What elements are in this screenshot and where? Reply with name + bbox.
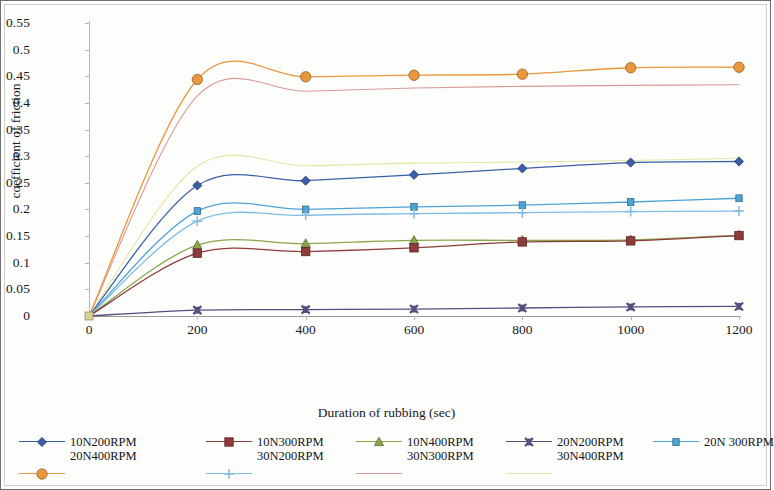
x-tick-mark bbox=[414, 316, 415, 320]
data-point-marker bbox=[518, 238, 526, 246]
data-point-marker bbox=[37, 437, 46, 446]
data-point-marker bbox=[517, 69, 527, 79]
chart-area: coefficient of friction Duration of rubb… bbox=[1, 1, 772, 401]
data-point-marker bbox=[409, 70, 419, 80]
data-point-marker bbox=[225, 438, 233, 446]
legend-item[interactable]: 30N400RPM bbox=[506, 456, 624, 478]
data-point-marker bbox=[517, 208, 527, 218]
data-point-marker bbox=[518, 164, 527, 173]
data-point-marker bbox=[519, 202, 525, 209]
x-tick-mark bbox=[306, 316, 307, 320]
data-point-marker bbox=[300, 72, 310, 82]
data-point-marker bbox=[192, 216, 202, 226]
data-point-marker bbox=[627, 199, 633, 206]
x-tick-label: 400 bbox=[296, 323, 316, 337]
y-tick-label: 0.2 bbox=[0, 202, 30, 215]
y-tick-label: 0.45 bbox=[0, 69, 30, 82]
data-point-marker bbox=[192, 74, 202, 84]
data-point-marker bbox=[410, 244, 418, 252]
legend-key bbox=[206, 436, 252, 448]
y-tick-label: 0.35 bbox=[0, 123, 30, 136]
legend-key bbox=[506, 436, 552, 448]
data-point-marker bbox=[736, 195, 742, 202]
data-point-marker bbox=[301, 247, 309, 255]
legend-key bbox=[506, 468, 552, 480]
y-tick-label: 0.3 bbox=[0, 149, 30, 162]
chart-legend: 10N200RPM10N300RPM10N400RPM20N200RPM20N … bbox=[1, 429, 772, 487]
legend-label: 10N400RPM bbox=[407, 436, 474, 449]
y-tick-label: 0.05 bbox=[0, 282, 30, 295]
y-tick-label: 0.25 bbox=[0, 176, 30, 189]
legend-label: 20N200RPM bbox=[557, 436, 624, 449]
series-line bbox=[89, 78, 739, 316]
legend-key bbox=[19, 468, 65, 480]
legend-item[interactable]: 30N300RPM bbox=[356, 456, 474, 478]
x-tick-label: 200 bbox=[187, 323, 207, 337]
y-tick-label: 0.4 bbox=[0, 96, 30, 109]
legend-label: 20N 300RPM bbox=[704, 436, 774, 449]
data-point-marker bbox=[374, 437, 383, 445]
data-point-marker bbox=[734, 206, 744, 216]
legend-marker bbox=[373, 436, 385, 448]
origin-marker bbox=[85, 312, 93, 320]
legend-label: 30N200RPM bbox=[257, 450, 324, 463]
legend-marker bbox=[223, 468, 235, 480]
legend-key bbox=[356, 468, 402, 480]
legend-marker bbox=[36, 468, 48, 480]
y-tick-label: 0.55 bbox=[0, 16, 30, 29]
legend-line-swatch bbox=[356, 473, 402, 474]
legend-key bbox=[206, 468, 252, 480]
x-axis-title: Duration of rubbing (sec) bbox=[1, 405, 772, 421]
data-point-marker bbox=[626, 237, 634, 245]
x-tick-mark bbox=[197, 316, 198, 320]
legend-label: 20N400RPM bbox=[70, 450, 137, 463]
x-tick-mark bbox=[739, 316, 740, 320]
legend-key bbox=[19, 436, 65, 448]
legend-label: 30N300RPM bbox=[407, 450, 474, 463]
y-tick-label: 0.1 bbox=[0, 256, 30, 269]
x-tick-label: 600 bbox=[404, 323, 424, 337]
legend-line-swatch bbox=[506, 473, 552, 474]
data-point-marker bbox=[409, 170, 418, 179]
series-line bbox=[89, 211, 739, 316]
data-point-marker bbox=[734, 62, 744, 72]
x-tick-mark bbox=[522, 316, 523, 320]
legend-label: 30N400RPM bbox=[557, 450, 624, 463]
x-axis-line bbox=[89, 316, 741, 317]
legend-label: 10N200RPM bbox=[70, 436, 137, 449]
legend-marker bbox=[223, 436, 235, 448]
data-point-marker bbox=[626, 158, 635, 167]
legend-item[interactable]: 20N400RPM bbox=[19, 456, 137, 478]
data-point-marker bbox=[193, 181, 202, 190]
data-point-marker bbox=[194, 208, 200, 215]
legend-item[interactable]: 30N200RPM bbox=[206, 456, 324, 478]
data-point-marker bbox=[625, 63, 635, 73]
x-tick-mark bbox=[631, 316, 632, 320]
data-point-marker bbox=[626, 207, 636, 217]
y-tick-label: 0.5 bbox=[0, 43, 30, 56]
x-tick-label: 800 bbox=[512, 323, 532, 337]
data-point-marker bbox=[193, 249, 201, 257]
data-point-marker bbox=[37, 469, 47, 479]
plot-region bbox=[89, 23, 739, 316]
legend-item[interactable]: 20N 300RPM bbox=[653, 431, 774, 453]
legend-marker bbox=[670, 436, 682, 448]
data-point-marker bbox=[525, 438, 533, 446]
legend-label: 10N300RPM bbox=[257, 436, 324, 449]
y-tick-label: 0 bbox=[0, 309, 30, 322]
series-line bbox=[89, 61, 739, 316]
legend-key bbox=[653, 436, 699, 448]
legend-key bbox=[356, 436, 402, 448]
y-tick-label: 0.15 bbox=[0, 229, 30, 242]
legend-marker bbox=[36, 436, 48, 448]
data-point-marker bbox=[735, 231, 743, 239]
data-point-marker bbox=[301, 176, 310, 185]
x-tick-label: 1200 bbox=[726, 323, 753, 337]
data-point-marker bbox=[673, 439, 679, 446]
x-tick-label: 1000 bbox=[617, 323, 644, 337]
data-point-marker bbox=[224, 469, 234, 479]
series-lines bbox=[89, 23, 739, 316]
x-tick-label: 0 bbox=[86, 323, 93, 337]
legend-marker bbox=[523, 436, 535, 448]
